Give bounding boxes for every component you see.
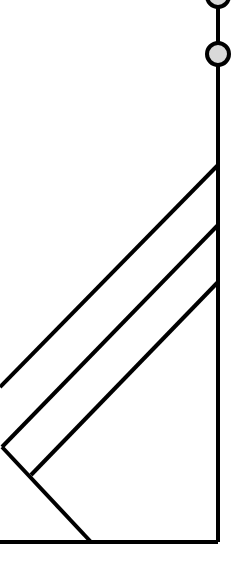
diagonal-2-line xyxy=(2,225,218,447)
diagonal-3-line xyxy=(31,282,218,475)
line-diagram xyxy=(0,0,244,586)
node-top-circle-icon xyxy=(207,0,229,7)
diagram-lines xyxy=(0,0,218,542)
diagonal-1-line xyxy=(0,165,218,387)
node-second-circle-icon xyxy=(207,43,229,65)
